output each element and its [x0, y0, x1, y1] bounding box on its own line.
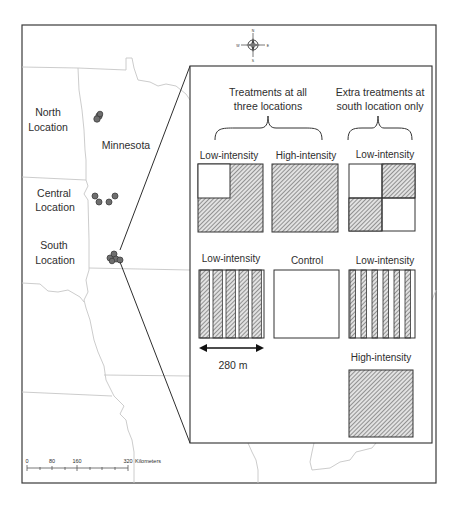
north-location-label-2: Location — [28, 121, 68, 133]
central-location-label-2: Location — [35, 201, 75, 213]
point-central — [92, 193, 98, 199]
treatment-c-label: Low-intensity — [356, 149, 414, 160]
point-south — [109, 258, 115, 264]
hatched-strip — [226, 270, 235, 338]
treatment-f-plot — [349, 270, 415, 338]
hatched-strip — [239, 270, 248, 338]
scale-tick-80: 80 — [49, 458, 55, 464]
hatched-strip — [200, 270, 209, 338]
scale-unit: Kilometers — [135, 458, 161, 464]
treatment-b-label: High-intensity — [276, 150, 337, 161]
point-central — [96, 199, 102, 205]
south-location-label-1: South — [40, 239, 68, 251]
treatment-e-plot — [274, 270, 339, 338]
hatched-strip — [350, 270, 356, 338]
treatment-g-plot — [349, 370, 413, 437]
treatment-a-plot — [198, 164, 263, 232]
point-central — [106, 199, 112, 205]
north-location-label-1: North — [35, 106, 61, 118]
point-north — [97, 111, 103, 117]
hatched-strip — [394, 270, 400, 338]
hatched-strip — [361, 270, 367, 338]
treatment-d-plot — [199, 270, 264, 338]
group-all-title-1: Treatments at all — [229, 86, 307, 98]
treatment-a-label: Low-intensity — [200, 150, 258, 161]
south-location-label-2: Location — [35, 254, 75, 266]
hatched-strip — [252, 270, 261, 338]
treatment-g-label: High-intensity — [351, 352, 412, 363]
point-central — [112, 193, 118, 199]
group-south-title-1: Extra treatments at — [336, 86, 425, 98]
map-figure: North Location Minnesota Central Locatio… — [0, 0, 457, 513]
scale-tick-160: 160 — [72, 458, 81, 464]
state-label-minnesota: Minnesota — [102, 139, 151, 151]
hatched-strip — [405, 270, 411, 338]
treatment-e-label: Control — [291, 255, 323, 266]
hatched-strip — [372, 270, 378, 338]
hatched-strip — [383, 270, 389, 338]
treatment-f-label: Low-intensity — [356, 255, 414, 266]
group-south-title-2: south location only — [337, 100, 425, 112]
hatched-strip — [213, 270, 222, 338]
scale-tick-320: 320 — [123, 458, 132, 464]
treatment-b-plot — [272, 164, 338, 232]
dimension-label: 280 m — [218, 359, 247, 371]
group-all-title-2: three locations — [234, 100, 302, 112]
treatment-c-plot — [349, 164, 415, 231]
central-location-label-1: Central — [37, 187, 71, 199]
treatment-d-label: Low-intensity — [202, 253, 260, 264]
scale-tick-0: 0 — [25, 458, 28, 464]
